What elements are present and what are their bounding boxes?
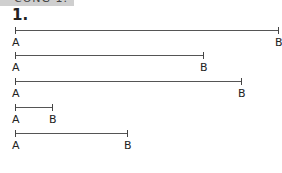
line-segment bbox=[15, 55, 203, 56]
line-segment bbox=[15, 107, 52, 108]
point-label-a: A bbox=[12, 88, 20, 99]
line-segment bbox=[15, 133, 127, 134]
point-label-b: B bbox=[124, 140, 132, 151]
line-segment bbox=[15, 81, 241, 82]
endpoint-tick-b bbox=[52, 104, 53, 111]
line-segment bbox=[15, 30, 278, 31]
point-label-b: B bbox=[200, 62, 208, 73]
endpoint-tick-a bbox=[15, 104, 16, 111]
endpoint-tick-b bbox=[203, 52, 204, 59]
endpoint-tick-a bbox=[15, 27, 16, 34]
endpoint-tick-a bbox=[15, 78, 16, 85]
exercise-number: 1. bbox=[12, 6, 28, 24]
point-label-b: B bbox=[49, 114, 57, 125]
point-label-a: A bbox=[12, 140, 20, 151]
point-label-a: A bbox=[12, 62, 20, 73]
point-label-a: A bbox=[12, 114, 20, 125]
point-label-b: B bbox=[238, 88, 246, 99]
endpoint-tick-b bbox=[127, 130, 128, 137]
point-label-a: A bbox=[12, 37, 20, 48]
endpoint-tick-a bbox=[15, 130, 16, 137]
endpoint-tick-b bbox=[241, 78, 242, 85]
endpoint-tick-a bbox=[15, 52, 16, 59]
point-label-b: B bbox=[275, 37, 282, 48]
endpoint-tick-b bbox=[278, 27, 279, 34]
